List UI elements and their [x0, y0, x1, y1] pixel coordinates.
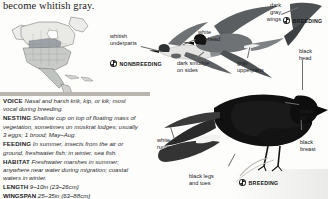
callout-dark-smudge-on-sides: dark smudge on sides [177, 60, 209, 74]
callout-white-rump: white rump [157, 137, 170, 151]
fact-nesting-label: NESTING [3, 114, 31, 121]
half-circle-icon [110, 60, 117, 67]
badge-breeding-top-label: BREEDING [293, 18, 323, 24]
callout-black-legs-and-toes: black legs and toes [189, 173, 214, 187]
fact-habitat-label: HABITAT [3, 158, 30, 165]
fact-feeding: FEEDING In summer, insects from the air … [3, 140, 139, 157]
leader-black-legs [228, 154, 235, 167]
leader-gray-upperparts [247, 47, 250, 58]
range-map [9, 14, 97, 94]
callout-gray-upperparts: gray upperparts [237, 60, 264, 74]
half-circle-icon [239, 179, 246, 186]
badge-breeding-bottom-label: BREEDING [249, 180, 279, 186]
range-map-graphic [9, 14, 97, 94]
fact-habitat: HABITAT Freshwater marshes in summer; an… [3, 158, 139, 183]
badge-breeding-top: BREEDING [283, 17, 322, 24]
badge-nonbreeding: NONBREEDING [110, 60, 162, 67]
fact-feeding-label: FEEDING [3, 140, 31, 147]
leader-white-rump [171, 127, 175, 139]
section-divider [0, 92, 150, 96]
leader-black-bill [285, 103, 299, 105]
fact-voice: VOICE Nasal and harsh krik, kip, or kik;… [3, 97, 139, 114]
measurement-wingspan: WINGSPAN 25–35in (63–88cm) [3, 192, 139, 199]
fact-voice-label: VOICE [3, 97, 23, 104]
leader-whitish-underparts [141, 46, 162, 52]
callout-black-breast: black breast [300, 139, 316, 153]
callout-whitish-underparts: whitish underparts [110, 33, 137, 47]
page-header-text: become whitish gray. [3, 0, 94, 11]
measurement-length: LENGTH 9–10in (23–26cm) [3, 183, 139, 191]
callout-black-head: black head [299, 48, 312, 62]
white-rump-patch [196, 135, 222, 144]
leader-dark-gray-wings [281, 7, 298, 14]
badge-nonbreeding-label: NONBREEDING [120, 61, 162, 67]
field-guide-page: become whitish gray. [0, 0, 328, 199]
callout-white-forehead: white forehead [198, 29, 220, 43]
measurement-wingspan-label: WINGSPAN [3, 192, 36, 199]
measurement-length-label: LENGTH [3, 183, 28, 190]
callout-dark-gray-wings: dark gray wings [255, 2, 281, 23]
species-facts: VOICE Nasal and harsh krik, kip, or kik;… [3, 97, 139, 199]
measurement-wingspan-value: 25–35in (63–88cm) [38, 192, 91, 199]
callout-black-bill: black bill [300, 108, 313, 122]
leader-dark-smudge [196, 52, 204, 59]
leader-black-head [303, 60, 304, 90]
leader-white-forehead [183, 40, 196, 46]
badge-breeding-bottom: BREEDING [239, 179, 278, 186]
half-circle-icon [283, 17, 290, 24]
measurement-length-value: 9–10in (23–26cm) [30, 183, 79, 190]
fact-nesting: NESTING Shallow cup on top of floating m… [3, 114, 139, 139]
